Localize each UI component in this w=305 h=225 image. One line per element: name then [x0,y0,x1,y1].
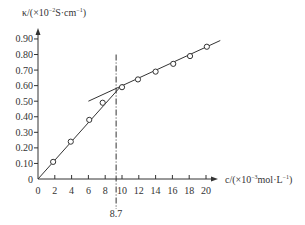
data-point-marker [87,117,92,122]
y-axis-arrow-icon [36,28,41,35]
y-axis-label: κ/(×10−2S·cm−1) [22,7,86,19]
x-tick-label: 16 [167,185,177,196]
y-tick-label: 0.70 [16,65,34,76]
x-tick-label: 4 [69,185,74,196]
x-tick-label: 14 [151,185,161,196]
data-point-marker [187,53,192,58]
data-point-marker [100,100,105,105]
x-tick-label: 20 [201,185,211,196]
data-point-marker [204,44,209,49]
y-tick-label: 0.20 [16,142,34,153]
cmc-value-label: 8.7 [110,208,123,219]
conductivity-chart: 0246810121416182000.100.200.300.400.500.… [0,0,305,225]
y-tick-label: 0.50 [16,96,34,107]
y-tick-label: 0.60 [16,80,34,91]
data-point-marker [51,159,56,164]
data-point-marker [171,61,176,66]
axes [36,28,219,182]
data-point-marker [68,139,73,144]
x-tick-label: 12 [134,185,144,196]
x-tick-label: 18 [184,185,194,196]
x-tick-label: 8 [103,185,108,196]
y-tick-label: 0.40 [16,111,34,122]
data-point-marker [135,77,140,82]
fit-lines [38,41,220,179]
x-tick-label: 0 [36,185,41,196]
x-axis-label: c/(×10−3mol·L−1) [225,174,292,186]
fit-line [38,84,123,179]
x-tick-label: 6 [86,185,91,196]
y-tick-label: 0.30 [16,127,34,138]
x-tick-label: 2 [52,185,57,196]
x-axis-arrow-icon [211,177,218,182]
x-tick-label: 10 [117,185,127,196]
y-tick-label: 0.80 [16,49,34,60]
y-tick-label: 0.90 [16,33,34,44]
y-tick-label: 0.10 [16,158,34,169]
data-points [51,44,210,164]
data-point-marker [153,69,158,74]
y-tick-label: 0 [28,174,33,185]
data-point-marker [119,85,124,90]
